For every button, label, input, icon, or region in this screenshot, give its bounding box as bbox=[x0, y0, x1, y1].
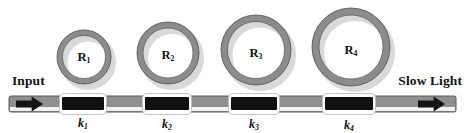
input-port-label: Input bbox=[12, 74, 45, 88]
ring-label-r2: R2 bbox=[162, 49, 175, 62]
coupler-region-k3 bbox=[231, 97, 277, 110]
ring-label-r3: R3 bbox=[250, 47, 263, 60]
coupling-label-k1: k1 bbox=[78, 117, 88, 130]
diagram-canvas bbox=[0, 0, 471, 133]
ring-resonator-diagram: R1 R2 R3 R4 k1 k2 k3 k4 Input Slow Light bbox=[0, 0, 471, 133]
ring-label-r4: R4 bbox=[345, 44, 358, 57]
coupling-label-k3: k3 bbox=[249, 118, 259, 131]
ring-label-r1: R1 bbox=[78, 51, 91, 64]
output-port-label: Slow Light bbox=[398, 74, 462, 88]
coupling-label-k2: k2 bbox=[162, 118, 172, 131]
coupler-region-k4 bbox=[325, 97, 373, 110]
coupling-label-k4: k4 bbox=[344, 119, 354, 132]
coupler-region-k2 bbox=[145, 97, 189, 110]
coupler-region-k1 bbox=[62, 97, 104, 110]
